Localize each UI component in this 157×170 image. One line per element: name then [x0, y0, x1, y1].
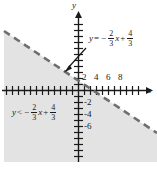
equation-intercept-denominator: 3: [127, 39, 133, 48]
y-axis-label: y: [72, 0, 76, 10]
y-tick-label-minus6: -6: [84, 121, 92, 131]
x-tick-label-4: 4: [94, 72, 99, 82]
equation-plus: +: [119, 33, 126, 43]
inequality-graph-figure: 2 4 6 8 -2 -4 -6 x y y=−23x+43 y<−23x+43: [0, 0, 157, 170]
inequality-slope-denominator: 3: [31, 113, 37, 122]
inequality-intercept-numerator: 4: [50, 104, 56, 113]
inequality-slope-numerator: 2: [31, 104, 37, 113]
boundary-equation-label: y=−23x+43: [89, 30, 134, 48]
inequality-intercept-fraction: 43: [50, 104, 56, 122]
region-inequality-label: y<−23x+43: [12, 104, 57, 122]
graph-canvas: [0, 0, 157, 170]
x-axis-label: x: [147, 85, 151, 95]
equation-slope-fraction: 23: [108, 30, 114, 48]
equation-intercept-numerator: 4: [127, 30, 133, 39]
x-tick-label-6: 6: [106, 72, 111, 82]
x-tick-label-2: 2: [82, 72, 87, 82]
equation-intercept-fraction: 43: [127, 30, 133, 48]
inequality-slope-fraction: 23: [31, 104, 37, 122]
inequality-intercept-denominator: 3: [50, 113, 56, 122]
y-tick-label-minus2: -2: [84, 97, 92, 107]
equation-slope-denominator: 3: [108, 39, 114, 48]
x-tick-label-8: 8: [118, 72, 123, 82]
inequality-sign: −: [23, 107, 30, 117]
equation-sign: −: [100, 33, 107, 43]
equation-slope-numerator: 2: [108, 30, 114, 39]
y-tick-label-minus4: -4: [84, 109, 92, 119]
inequality-plus: +: [42, 107, 49, 117]
